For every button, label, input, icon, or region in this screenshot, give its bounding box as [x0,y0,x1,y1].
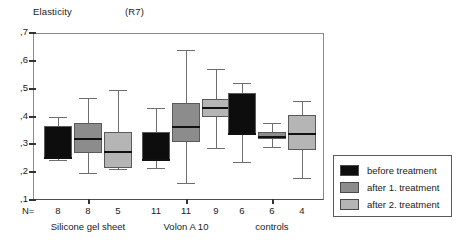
legend-swatch-after1 [340,182,359,193]
whisker-cap-upper [263,123,281,124]
median-line [202,107,230,109]
chart-root: Elasticity (R7) ,7,6,5,4,3,2,1 N= before… [0,0,456,248]
y-axis-tick [29,171,36,173]
x-axis-tick [88,199,90,204]
box [172,103,200,142]
n-count-label: 11 [142,205,170,216]
whisker-upper [156,108,157,132]
median-line [104,151,132,153]
y-axis-tick-label: ,7 [2,27,28,37]
whisker-cap-upper [233,83,251,84]
n-count-label: 8 [74,205,102,216]
median-line [258,136,286,138]
whisker-lower [186,142,187,183]
median-line [74,138,102,140]
legend-label: before treatment [367,165,437,176]
y-axis-tick [29,88,36,90]
n-count-label: 6 [228,205,256,216]
whisker-cap-upper [49,117,67,118]
legend-item: after 2. treatment [334,196,451,213]
x-axis-tick [272,199,274,204]
y-axis-tick-label: ,1 [2,194,28,204]
whisker-upper [118,90,119,132]
legend-swatch-after2 [340,199,359,210]
y-axis-tick [29,199,36,201]
whisker-cap-lower [263,147,281,148]
whisker-cap-upper [147,108,165,109]
whisker-cap-lower [293,178,311,179]
whisker-lower [242,135,243,163]
legend-item: after 1. treatment [334,179,451,196]
legend: before treatment after 1. treatment afte… [333,155,452,217]
median-line [172,126,200,128]
y-axis-tick-label: ,5 [2,83,28,93]
legend-label: after 2. treatment [367,199,439,210]
whisker-cap-upper [177,50,195,51]
legend-item: before treatment [334,162,451,179]
whisker-cap-lower [49,160,67,161]
box [228,93,256,135]
y-axis-tick [29,60,36,62]
y-axis-tick-label: ,6 [2,55,28,65]
box [104,132,132,168]
whisker-cap-lower [109,169,127,170]
n-count-label: 8 [44,205,72,216]
y-axis-tick [29,116,36,118]
median-line [228,133,256,135]
box [44,126,72,158]
whisker-cap-upper [109,90,127,91]
group-label: controls [212,221,332,232]
whisker-upper [242,83,243,93]
n-count-label: 9 [202,205,230,216]
n-count-label: 4 [288,205,316,216]
whisker-cap-upper [79,98,97,99]
whisker-upper [272,123,273,131]
whisker-cap-lower [79,173,97,174]
whisker-cap-lower [207,148,225,149]
whisker-cap-lower [147,168,165,169]
whisker-lower [216,117,217,148]
page-title: Elasticity [33,6,72,17]
x-axis-tick [186,199,188,204]
whisker-upper [88,98,89,124]
whisker-upper [58,117,59,127]
y-axis-tick [29,32,36,34]
median-line [142,159,170,161]
whisker-cap-upper [207,69,225,70]
whisker-upper [216,69,217,100]
n-count-label: 11 [172,205,200,216]
whisker-cap-lower [177,183,195,184]
whisker-lower [302,150,303,178]
whisker-lower [272,139,273,147]
box [142,132,170,161]
y-axis-tick-label: ,2 [2,166,28,176]
median-line [288,133,316,135]
n-count-label: 6 [258,205,286,216]
whisker-upper [302,101,303,115]
y-axis-tick-label: ,4 [2,111,28,121]
y-axis-tick-label: ,3 [2,138,28,148]
whisker-lower [156,161,157,168]
whisker-cap-upper [293,101,311,102]
measurement-code: (R7) [125,6,144,17]
y-axis-tick [29,143,36,145]
n-count-label: 5 [104,205,132,216]
whisker-lower [88,153,89,172]
n-prefix-label: N= [22,205,34,216]
whisker-upper [186,50,187,103]
legend-label: after 1. treatment [367,182,439,193]
legend-swatch-before [340,165,359,176]
median-line [44,157,72,159]
whisker-cap-lower [233,162,251,163]
